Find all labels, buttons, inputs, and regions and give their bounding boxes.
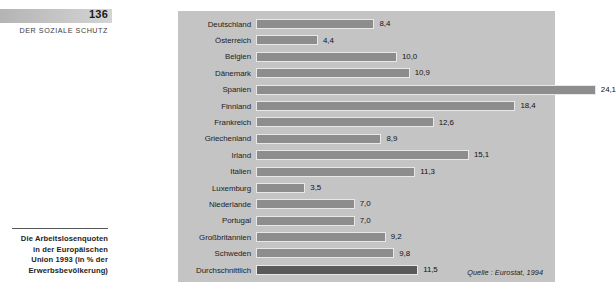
chart-row-label: Italien [178,167,256,176]
chart-row-label: Durchschnittlich [178,266,256,275]
chart-row-label: Frankreich [178,118,256,127]
chart-row: Spanien24,1 [178,82,555,98]
chart-bar [256,134,381,144]
chart-row: Luxemburg3,5 [178,180,555,196]
chart-row: Niederlande7,0 [178,196,555,212]
chart-row: Frankreich12,6 [178,114,555,130]
chart-bar-area: 12,6 [256,114,555,130]
chart-bar [256,199,355,209]
chart-row-label: Belgien [178,52,256,61]
chart-bar-area: 3,5 [256,180,555,196]
chart-row: Dänemark10,9 [178,65,555,81]
chart-row: Schweden9,8 [178,245,555,261]
chart-bar-value: 12,6 [439,118,454,127]
chart-row-label: Portugal [178,216,256,225]
chart-bar [256,265,418,275]
chart-bar-value: 7,0 [360,216,371,225]
chart-bar-value: 8,9 [386,134,397,143]
figure-caption-block: Die Arbeitslosenquoten in der Europäisch… [12,228,108,276]
chart-bar [256,117,434,127]
chart-bar-value: 24,1 [601,85,616,94]
chart-bar [256,19,374,29]
page-number: 136 [0,8,108,20]
chart-bar-area: 8,9 [256,131,555,147]
chart-row-label: Spanien [178,85,256,94]
section-title: DER SOZIALE SCHUTZ [0,26,108,35]
chart-bar [256,183,305,193]
chart-row-label: Irland [178,151,256,160]
chart-panel: Deutschland8,4Österreich4,4Belgien10,0Dä… [178,11,555,282]
chart-bar [256,232,386,242]
chart-bar-area: 10,0 [256,49,555,65]
chart-bar-area: 18,4 [256,98,555,114]
chart-bar-value: 7,0 [360,199,371,208]
chart-bar-area: 9,2 [256,229,555,245]
caption-divider [12,228,108,229]
chart-bar-value: 10,9 [415,68,430,77]
chart-bar [256,216,355,226]
chart-bar-area: 8,4 [256,16,555,32]
chart-row: Portugal7,0 [178,213,555,229]
chart-bar-value: 4,4 [323,36,334,45]
chart-bar [256,85,596,95]
chart-bar-value: 8,4 [379,19,390,28]
chart-row-label: Griechenland [178,134,256,143]
chart-bar-area: 4,4 [256,32,555,48]
chart-row-label: Großbritannien [178,233,256,242]
chart-bar-area: 10,9 [256,65,555,81]
chart-bar-area: 11,3 [256,164,555,180]
chart-bar-area: 9,8 [256,245,555,261]
chart-row: Italien11,3 [178,164,555,180]
chart-bar-value: 9,2 [391,232,402,241]
chart-row: Irland15,1 [178,147,555,163]
chart-row-label: Deutschland [178,20,256,29]
chart-bar-value: 11,5 [423,265,438,274]
chart-bar-value: 18,4 [520,101,535,110]
chart-row: Griechenland8,9 [178,131,555,147]
figure-caption: Die Arbeitslosenquoten in der Europäisch… [12,234,108,276]
chart-row-label: Österreich [178,36,256,45]
chart-row: Finnland18,4 [178,98,555,114]
chart-bar-area: 7,0 [256,196,555,212]
chart-row-label: Dänemark [178,69,256,78]
chart-row: Deutschland8,4 [178,16,555,32]
chart-bar [256,101,515,111]
chart-bar [256,35,318,45]
chart-bar-value: 3,5 [310,183,321,192]
chart-row: Belgien10,0 [178,49,555,65]
chart-bar [256,167,415,177]
chart-row-label: Schweden [178,249,256,258]
chart-bar [256,52,397,62]
chart-bar-value: 9,8 [399,249,410,258]
chart-bar-value: 11,3 [420,167,435,176]
chart-bar [256,68,410,78]
chart-row-label: Niederlande [178,200,256,209]
chart-source-note: Quelle : Eurostat, 1994 [467,268,543,277]
chart-row-label: Finnland [178,102,256,111]
chart-row: Großbritannien9,2 [178,229,555,245]
chart-bar [256,248,394,258]
chart-bar-value: 10,0 [402,52,417,61]
sidebar: 136 DER SOZIALE SCHUTZ Die Arbeitslosenq… [0,0,172,307]
chart-bar [256,150,469,160]
chart-bar-area: 7,0 [256,213,555,229]
chart-bar-area: 15,1 [256,147,555,163]
chart-bar-area: 24,1 [256,82,555,98]
chart-row-label: Luxemburg [178,184,256,193]
chart-row: Österreich4,4 [178,32,555,48]
chart-rows: Deutschland8,4Österreich4,4Belgien10,0Dä… [178,16,555,278]
chart-bar-value: 15,1 [474,150,489,159]
